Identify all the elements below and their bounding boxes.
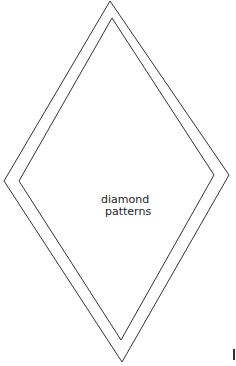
diamond-outline-graphic (0, 0, 236, 366)
edge-mark (233, 349, 235, 360)
inner-diamond (19, 18, 214, 340)
label-line-patterns: patterns (105, 206, 151, 218)
outer-diamond (4, 1, 229, 362)
diagram-canvas: diamond patterns (0, 0, 236, 366)
